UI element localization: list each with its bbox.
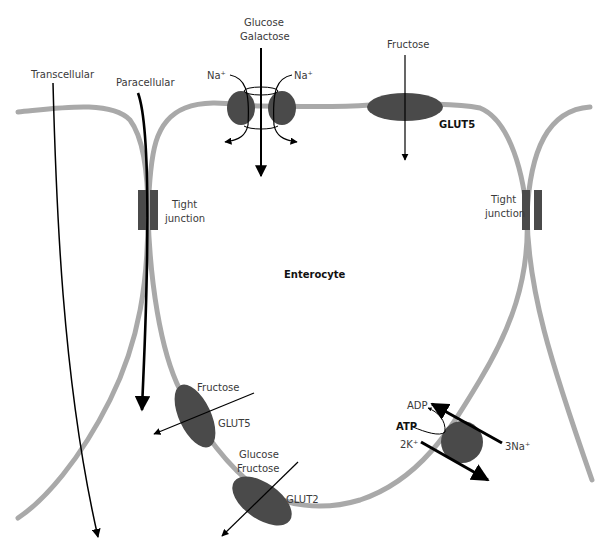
tight-junction-left (138, 190, 146, 230)
tight-junction-right-label-2: junction (484, 208, 525, 219)
sglt1-right-subunit (268, 91, 296, 125)
glut5-bottom-label: GLUT5 (218, 418, 251, 429)
na-right-label: Na⁺ (294, 70, 313, 81)
right-cell-membrane-lower (527, 215, 592, 480)
tight-junction-right-b (534, 190, 542, 230)
atp-adp-arrow (413, 408, 445, 434)
enterocyte-diagram: Transcellular Paracellular Glucose Galac… (0, 0, 609, 557)
atp-label: ATP (396, 421, 417, 432)
glucose-top-label: Glucose (244, 17, 284, 28)
enterocyte-label: Enterocyte (284, 269, 346, 280)
transcellular-arrow (53, 83, 98, 537)
fructose-bottom2-label: Fructose (237, 463, 279, 474)
adp-label: ADP (407, 400, 428, 411)
tight-junction-left-b (150, 190, 158, 230)
tight-junction-left-label-1: Tight (171, 199, 197, 210)
fructose-top-label: Fructose (387, 39, 429, 50)
tight-junction-left-label-2: junction (164, 213, 205, 224)
glucose-bottom-label: Glucose (239, 449, 279, 460)
glut2-label: GLUT2 (286, 494, 319, 505)
transcellular-label: Transcellular (30, 69, 95, 80)
galactose-top-label: Galactose (240, 31, 290, 42)
sglt1-left-subunit (227, 91, 255, 125)
paracellular-label: Paracellular (116, 77, 175, 88)
three-na-label: 3Na⁺ (505, 441, 530, 452)
glut5-top-label: GLUT5 (439, 119, 475, 130)
tight-junction-right-label-1: Tight (490, 194, 516, 205)
two-k-label: 2K⁺ (400, 439, 418, 450)
fructose-bottom-label: Fructose (197, 382, 239, 393)
na-left-label: Na⁺ (207, 70, 226, 81)
